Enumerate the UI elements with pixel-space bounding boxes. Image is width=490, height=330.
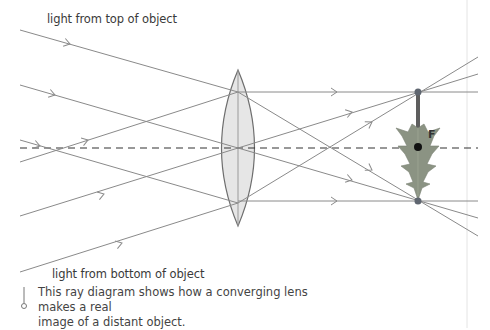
ray-top-2-refracted [238,148,478,218]
ray-top-3 [20,140,238,203]
caption-line-1: This ray diagram shows how a converging … [38,285,338,315]
ray-arrows [33,39,374,249]
ray-bottom-2 [20,148,238,216]
label-light-from-bottom: light from bottom of object [52,267,204,281]
ray-top-1-refracted [238,92,478,236]
caption-line-2: image of a distant object. [38,315,338,330]
image-bottom-point [415,198,422,205]
focal-point-dot [414,143,422,151]
focal-point-label: F [428,128,436,141]
label-light-from-top: light from top of object [47,12,177,26]
ray-bottom-2-refracted [238,74,478,148]
figure-caption: This ray diagram shows how a converging … [38,285,338,330]
ray-bottom-3 [20,203,238,272]
caption-marker-icon [22,287,27,309]
ray-top-1 [20,30,238,92]
ray-bottom-3-refracted [238,57,478,203]
ray-top-2 [20,85,238,148]
image-top-point [415,89,422,96]
ray-bottom-1 [20,92,238,162]
